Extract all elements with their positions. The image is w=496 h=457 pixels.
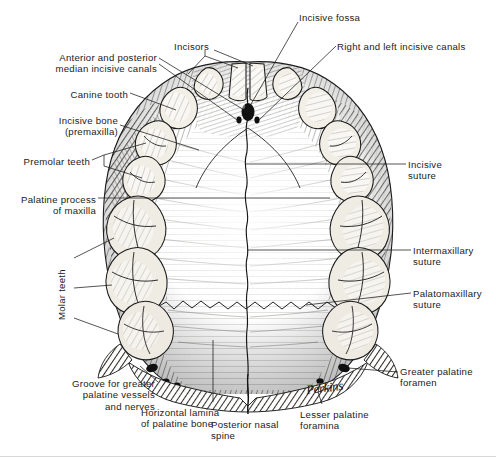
- label-molar-teeth: Molar teeth: [56, 269, 67, 320]
- label-posterior-nasal-spine: Posterior nasal spine: [211, 419, 279, 442]
- label-palatine-process-of-maxilla: Palatine process of maxilla: [0, 194, 96, 217]
- label-greater-palatine-foramen: Greater palatine foramen: [400, 366, 473, 389]
- label-palatomaxillary-suture: Palatomaxillary suture: [413, 288, 482, 311]
- label-incisive-suture: Incisive suture: [408, 159, 442, 182]
- label-right-and-left-incisive-canals: Right and left incisive canals: [337, 41, 466, 52]
- label-lesser-palatine-foramina: Lesser palatine foramina: [300, 409, 369, 432]
- label-intermaxillary-suture: Intermaxillary suture: [413, 245, 474, 268]
- label-incisive-fossa: Incisive fossa: [299, 12, 360, 23]
- label-incisive-bone: Incisive bone (premaxilla): [0, 115, 118, 138]
- label-incisors: Incisors: [174, 41, 209, 52]
- label-horizontal-lamina: Horizontal lamina of palatine bone: [141, 407, 219, 430]
- anatomical-figure: Incisive fossa Incisors Right and left i…: [0, 0, 496, 457]
- label-groove-for-greater-palatine: Groove for greater palatine vessels and …: [0, 378, 155, 412]
- leader-molar-c: [74, 318, 118, 334]
- label-premolar-teeth: Premolar teeth: [0, 156, 90, 167]
- label-canine-tooth: Canine tooth: [0, 89, 128, 100]
- label-median-incisive-canals: Anterior and posterior median incisive c…: [0, 52, 157, 75]
